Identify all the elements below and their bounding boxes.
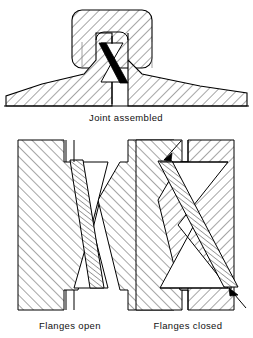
- panel-flanges-closed: Flanges closed: [136, 140, 246, 331]
- caption-joint-assembled: Joint assembled: [89, 112, 163, 123]
- caption-flanges-closed: Flanges closed: [154, 320, 223, 331]
- technical-drawing-figure: Joint assembled Flanges open: [0, 0, 253, 338]
- figure-canvas: Joint assembled Flanges open: [0, 0, 253, 338]
- caption-flanges-open: Flanges open: [39, 320, 101, 331]
